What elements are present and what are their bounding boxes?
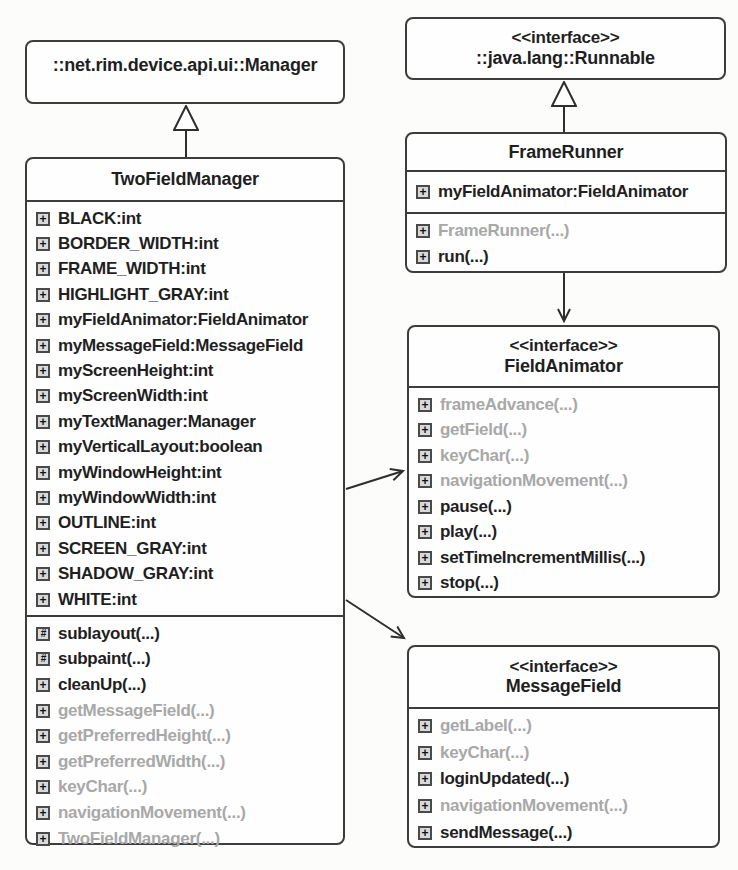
method-label: getPreferredHeight(...) — [58, 726, 231, 746]
attribute-label: myVerticalLayout:boolean — [58, 437, 262, 457]
method-label: getLabel(...) — [440, 716, 532, 736]
method-label: sublayout(...) — [58, 624, 160, 644]
method-row: +FrameRunner(...) — [407, 218, 725, 244]
plus-box-icon: + — [418, 500, 432, 514]
attribute-label: myMessageField:MessageField — [58, 336, 303, 356]
attribute-row: +BLACK:int — [27, 206, 343, 231]
method-label: FrameRunner(...) — [438, 221, 569, 241]
plus-box-icon: + — [36, 313, 50, 327]
attribute-label: HIGHLIGHT_GRAY:int — [58, 285, 228, 305]
class-title: ::net.rim.device.api.ui::Manager — [27, 42, 343, 76]
plus-box-icon: + — [416, 185, 430, 199]
attribute-row: +FRAME_WIDTH:int — [27, 257, 343, 282]
attribute-label: myTextManager:Manager — [58, 412, 255, 432]
attributes-compartment: +BLACK:int +BORDER_WIDTH:int +FRAME_WIDT… — [27, 200, 343, 615]
class-title: TwoFieldManager — [27, 159, 343, 200]
attribute-row: +myTextManager:Manager — [27, 409, 343, 434]
method-label: getMessageField(...) — [58, 701, 214, 721]
method-label: navigationMovement(...) — [58, 803, 246, 823]
attribute-label: myFieldAnimator:FieldAnimator — [438, 182, 688, 202]
method-label: setTimeIncrementMillis(...) — [440, 548, 645, 568]
plus-box-icon: + — [36, 516, 50, 530]
method-row: +keyChar(...) — [409, 443, 718, 469]
plus-box-icon: + — [36, 466, 50, 480]
methods-compartment: +frameAdvance(...) +getField(...) +keyCh… — [409, 386, 718, 596]
methods-compartment: +getLabel(...) +keyChar(...) +loginUpdat… — [409, 707, 718, 846]
method-row: +getPreferredHeight(...) — [27, 723, 343, 749]
class-box-fieldanimator: <<interface>> FieldAnimator +frameAdvanc… — [407, 325, 720, 598]
method-label: loginUpdated(...) — [440, 769, 569, 789]
attribute-row: +myWindowHeight:int — [27, 460, 343, 485]
method-row: +frameAdvance(...) — [409, 392, 718, 418]
plus-box-icon: + — [418, 474, 432, 488]
method-row: +navigationMovement(...) — [409, 469, 718, 495]
attribute-row: +myMessageField:MessageField — [27, 333, 343, 358]
plus-box-icon: + — [36, 212, 50, 226]
method-row: +navigationMovement(...) — [409, 793, 718, 820]
method-label: navigationMovement(...) — [440, 471, 628, 491]
plus-box-icon: + — [36, 593, 50, 607]
method-row: #subpaint(...) — [27, 647, 343, 673]
method-label: cleanUp(...) — [58, 675, 146, 695]
stereotype-label: <<interface>> — [512, 28, 620, 48]
method-row: +sendMessage(...) — [409, 819, 718, 846]
attribute-row: +myScreenHeight:int — [27, 358, 343, 383]
method-label: TwoFieldManager(...) — [58, 829, 220, 849]
attribute-row: +OUTLINE:int — [27, 511, 343, 536]
plus-box-icon: + — [418, 746, 432, 760]
plus-box-icon: + — [418, 449, 432, 463]
attribute-label: myScreenWidth:int — [58, 386, 208, 406]
attribute-label: myScreenHeight:int — [58, 361, 213, 381]
plus-box-icon: + — [418, 799, 432, 813]
attribute-label: myWindowHeight:int — [58, 463, 221, 483]
uml-class-diagram: ::net.rim.device.api.ui::Manager <<inter… — [0, 0, 738, 870]
class-box-runnable: <<interface>> ::java.lang::Runnable — [405, 17, 726, 80]
plus-box-icon: + — [418, 826, 432, 840]
method-row: +keyChar(...) — [409, 740, 718, 767]
method-label: play(...) — [440, 522, 497, 542]
plus-box-icon: + — [418, 772, 432, 786]
method-label: keyChar(...) — [440, 446, 529, 466]
method-label: sendMessage(...) — [440, 823, 572, 843]
method-label: getPreferredWidth(...) — [58, 752, 225, 772]
method-row: +stop(...) — [409, 571, 718, 597]
method-label: keyChar(...) — [440, 743, 529, 763]
stereotype-label: <<interface>> — [510, 336, 618, 356]
plus-box-icon: + — [36, 339, 50, 353]
plus-box-icon: + — [416, 224, 430, 238]
attribute-label: BORDER_WIDTH:int — [58, 234, 218, 254]
class-box-twofieldmanager: TwoFieldManager +BLACK:int +BORDER_WIDTH… — [25, 157, 345, 845]
method-row: +pause(...) — [409, 494, 718, 520]
attribute-row: +myWindowWidth:int — [27, 485, 343, 510]
attribute-row: +WHITE:int — [27, 587, 343, 612]
method-label: navigationMovement(...) — [440, 796, 628, 816]
hash-box-icon: # — [36, 627, 50, 641]
plus-box-icon: + — [36, 415, 50, 429]
plus-box-icon: + — [36, 729, 50, 743]
attribute-row: +SHADOW_GRAY:int — [27, 561, 343, 586]
class-title: FrameRunner — [407, 134, 725, 170]
plus-box-icon: + — [418, 525, 432, 539]
attribute-row: +BORDER_WIDTH:int — [27, 231, 343, 256]
attribute-label: WHITE:int — [58, 590, 137, 610]
method-row: +navigationMovement(...) — [27, 800, 343, 826]
attribute-label: SCREEN_GRAY:int — [58, 539, 207, 559]
plus-box-icon: + — [36, 678, 50, 692]
method-row: +keyChar(...) — [27, 775, 343, 801]
plus-box-icon: + — [418, 719, 432, 733]
method-label: keyChar(...) — [58, 777, 147, 797]
stereotype-label: <<interface>> — [510, 657, 618, 677]
method-label: subpaint(...) — [58, 649, 150, 669]
plus-box-icon: + — [36, 389, 50, 403]
plus-box-icon: + — [36, 440, 50, 454]
plus-box-icon: + — [36, 832, 50, 846]
hash-box-icon: # — [36, 652, 50, 666]
attribute-row: +SCREEN_GRAY:int — [27, 536, 343, 561]
plus-box-icon: + — [418, 576, 432, 590]
method-row: #sublayout(...) — [27, 621, 343, 647]
attribute-row: +HIGHLIGHT_GRAY:int — [27, 282, 343, 307]
method-label: getField(...) — [440, 420, 527, 440]
plus-box-icon: + — [36, 780, 50, 794]
method-row: +cleanUp(...) — [27, 672, 343, 698]
method-row: +run(...) — [407, 244, 725, 270]
